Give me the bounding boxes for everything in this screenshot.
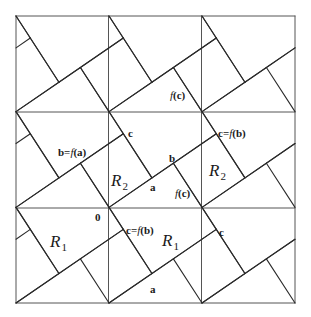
label-c: c <box>128 128 133 139</box>
label-a: a <box>150 182 156 193</box>
square-grid <box>16 16 295 303</box>
label-origin-zero: 0 <box>95 212 101 223</box>
region-label-R2: R2 <box>209 162 226 182</box>
tiling-drawing <box>0 0 311 317</box>
label-c-equals-f-b: c=f(b) <box>218 128 246 139</box>
label-c-equals-f-b: c=f(b) <box>126 225 154 236</box>
tilted-squares-edges <box>16 16 295 303</box>
label-f-c: f(c) <box>170 90 185 101</box>
label-a: a <box>150 284 156 295</box>
region-label-R1: R1 <box>50 233 67 253</box>
region-label-R2: R2 <box>111 172 128 192</box>
label-c: c <box>219 227 224 238</box>
label-b-equals-f-a: b=f(a) <box>58 147 86 158</box>
region-label-R1: R1 <box>162 232 179 252</box>
label-f-c: f(c) <box>175 188 190 199</box>
label-b: b <box>169 153 175 164</box>
pythagorean-tiling-figure: b=f(a) c f(c) c=f(b) b a f(c) 0 c=f(b) c… <box>0 0 311 317</box>
